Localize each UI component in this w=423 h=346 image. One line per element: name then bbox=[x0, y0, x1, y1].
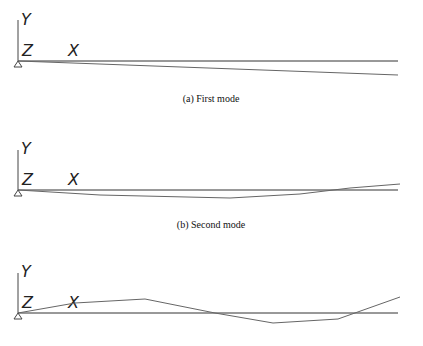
y-axis-label: Y bbox=[21, 139, 32, 158]
caption: (a) First mode bbox=[183, 93, 240, 105]
panel-second-mode: Y Z X (b) Second mode bbox=[14, 139, 400, 231]
y-axis-label: Y bbox=[21, 10, 32, 29]
y-axis-label: Y bbox=[21, 262, 32, 281]
x-axis-label: X bbox=[67, 41, 80, 60]
caption: (b) Second mode bbox=[177, 219, 246, 231]
pin-support-icon bbox=[14, 61, 22, 67]
z-axis-label: Z bbox=[21, 170, 34, 189]
pin-support-icon bbox=[14, 190, 22, 196]
mode-shape-line bbox=[18, 61, 398, 75]
z-axis-label: Z bbox=[21, 293, 34, 312]
panel-third-mode: Y Z X bbox=[14, 262, 400, 323]
mode-shapes-diagram: Y Z X (a) First mode Y Z X (b) Second mo… bbox=[0, 0, 423, 346]
x-axis-label: X bbox=[67, 170, 80, 189]
z-axis-label: Z bbox=[21, 41, 34, 60]
panel-first-mode: Y Z X (a) First mode bbox=[14, 10, 398, 105]
pin-support-icon bbox=[14, 313, 22, 319]
